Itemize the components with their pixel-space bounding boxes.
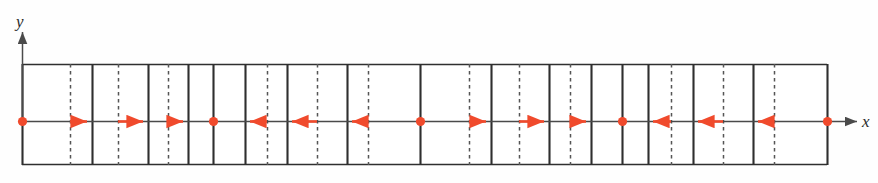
node-marker — [416, 117, 425, 126]
node-marker — [18, 117, 27, 126]
strip-body — [22, 64, 827, 165]
x-axis-label: x — [861, 112, 870, 131]
node-marker — [823, 117, 832, 126]
lattice-strip-figure: x y — [0, 0, 878, 183]
node-marker — [618, 117, 627, 126]
strip-cells-layer — [22, 64, 828, 165]
y-axis-label: y — [14, 12, 24, 31]
figure-container: x y — [0, 0, 878, 183]
node-marker — [209, 117, 218, 126]
